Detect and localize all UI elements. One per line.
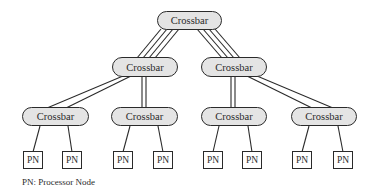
crossbar-leaf-1: Crossbar (22, 107, 89, 126)
processor-node-1: PN (23, 151, 43, 169)
processor-node-2: PN (62, 151, 82, 169)
processor-node-6: PN (242, 151, 262, 169)
crossbar-root: Crossbar (157, 11, 222, 30)
crossbar-leaf-3: Crossbar (201, 107, 267, 126)
processor-node-4: PN (153, 151, 173, 169)
crossbar-leaf-4: Crossbar (291, 107, 357, 126)
crossbar-leaf-2: Crossbar (111, 107, 178, 126)
processor-node-8: PN (333, 151, 353, 169)
links-mid-left-to-leaf-1 (47, 76, 131, 108)
links-leaf-to-pn (33, 126, 343, 152)
legend-caption: PN: Processor Node (22, 177, 95, 187)
links-root-to-mid-right (197, 29, 240, 58)
processor-node-7: PN (292, 151, 312, 169)
processor-node-5: PN (203, 151, 223, 169)
links-root-to-mid-left (137, 29, 179, 58)
crossbar-mid-right: Crossbar (201, 57, 267, 77)
crossbar-hierarchy-diagram: Crossbar Crossbar Crossbar Crossbar Cros… (0, 0, 374, 192)
crossbar-mid-left: Crossbar (112, 57, 178, 77)
links-mid-right-to-leaf-4 (247, 76, 333, 108)
links-mid-right-to-leaf-3 (231, 77, 235, 108)
links-mid-left-to-leaf-2 (142, 77, 146, 108)
processor-node-3: PN (113, 151, 133, 169)
